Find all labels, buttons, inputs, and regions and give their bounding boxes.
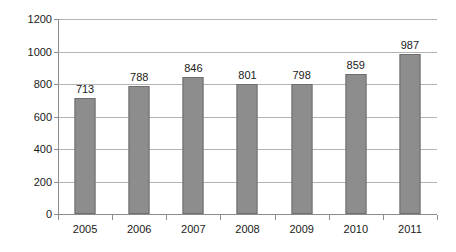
y-axis-tick-mark: [54, 19, 59, 20]
bar-value-label: 798: [292, 70, 310, 81]
y-axis-tick-mark: [54, 182, 59, 183]
x-axis-tick-mark: [275, 215, 276, 220]
y-axis-tick-mark: [54, 117, 59, 118]
bar-group: 859: [329, 19, 383, 214]
bar[interactable]: [399, 54, 420, 214]
y-axis-tick-mark: [54, 84, 59, 85]
bar-group: 801: [220, 19, 274, 214]
y-axis-tick-label: 0: [8, 209, 52, 220]
bar[interactable]: [291, 84, 312, 214]
y-axis: 020040060080010001200: [0, 0, 52, 252]
y-axis-tick-label: 600: [8, 112, 52, 123]
x-axis-tick-label: 2009: [289, 223, 313, 235]
bar[interactable]: [75, 98, 96, 214]
x-axis-tick-mark: [112, 215, 113, 220]
bar-value-label: 788: [130, 72, 148, 83]
bar-group: 798: [275, 19, 329, 214]
bar-value-label: 846: [184, 63, 202, 74]
y-axis-tick-mark: [54, 52, 59, 53]
bar-group: 846: [166, 19, 220, 214]
x-axis-tick-label: 2011: [398, 223, 422, 235]
x-axis-tick-label: 2008: [235, 223, 259, 235]
x-axis-tick-mark: [220, 215, 221, 220]
y-axis-tick-label: 200: [8, 177, 52, 188]
y-axis-tick-label: 400: [8, 144, 52, 155]
y-axis-tick-mark: [54, 149, 59, 150]
bar[interactable]: [237, 84, 258, 214]
bar-value-label: 987: [401, 40, 419, 51]
x-axis-line: [58, 214, 437, 215]
y-axis-tick-label: 1200: [8, 14, 52, 25]
x-axis-tick-mark: [166, 215, 167, 220]
x-axis-tick-mark: [383, 215, 384, 220]
bar-chart: 713788846801798859987 020040060080010001…: [0, 0, 456, 252]
x-axis-tick-label: 2006: [127, 223, 151, 235]
bar[interactable]: [345, 74, 366, 214]
y-axis-tick-label: 800: [8, 79, 52, 90]
x-axis-tick-label: 2005: [73, 223, 97, 235]
x-axis-tick-label: 2010: [344, 223, 368, 235]
plot-area: 713788846801798859987: [58, 19, 437, 214]
bar[interactable]: [129, 86, 150, 214]
bar-group: 713: [58, 19, 112, 214]
bar-value-label: 859: [347, 60, 365, 71]
bar-value-label: 713: [76, 84, 94, 95]
x-axis-tick-mark: [437, 215, 438, 220]
y-axis-tick-label: 1000: [8, 47, 52, 58]
x-axis-tick-mark: [329, 215, 330, 220]
bar[interactable]: [183, 77, 204, 214]
bar-value-label: 801: [238, 70, 256, 81]
bar-group: 987: [383, 19, 437, 214]
x-axis-tick-mark: [58, 215, 59, 220]
x-axis-tick-label: 2007: [181, 223, 205, 235]
bar-group: 788: [112, 19, 166, 214]
